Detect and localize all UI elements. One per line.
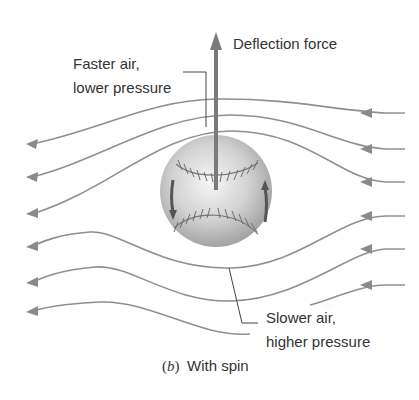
faster-air-label: Faster air, lower pressure — [73, 52, 171, 100]
arrow-out-2 — [26, 172, 38, 182]
caption-text: With spin — [187, 357, 249, 374]
magnus-effect-diagram: Deflection force Faster air, lower press… — [0, 0, 419, 400]
outgoing-arrows — [26, 139, 38, 316]
deflection-arrowhead — [210, 32, 222, 50]
leader-slower-air — [229, 268, 258, 323]
streamline-5 — [32, 249, 386, 301]
incoming-arrows — [360, 108, 405, 290]
slower-air-label: Slower air, higher pressure — [266, 306, 370, 354]
deflection-force-label: Deflection force — [233, 32, 337, 56]
faster-air-line2: lower pressure — [73, 76, 171, 100]
slower-air-line1: Slower air, — [266, 306, 370, 330]
arrow-out-6 — [26, 306, 38, 316]
faster-air-line1: Faster air, — [73, 52, 171, 76]
arrow-out-4 — [26, 241, 38, 251]
caption-paren-close: ) — [175, 358, 180, 374]
figure-caption: (b) With spin — [162, 357, 249, 375]
arrow-out-1 — [26, 139, 38, 149]
arrow-out-3 — [26, 208, 38, 218]
caption-letter: b — [167, 358, 175, 374]
deflection-force-text: Deflection force — [233, 35, 337, 52]
slower-air-line2: higher pressure — [266, 330, 370, 354]
arrow-out-5 — [26, 277, 38, 287]
